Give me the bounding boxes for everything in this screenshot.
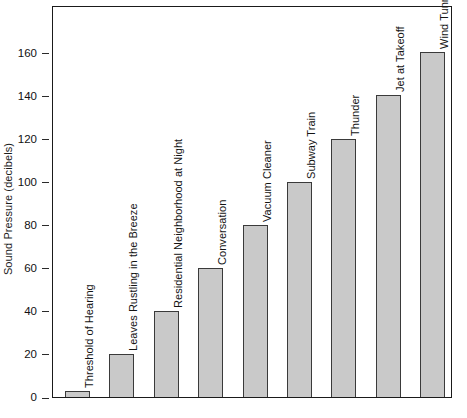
y-axis-ticks: 020406080100120140160 — [0, 0, 52, 418]
y-axis-tick-mark — [42, 354, 49, 355]
bar-category-label: Threshold of Hearing — [84, 284, 95, 388]
bar — [198, 268, 223, 397]
y-axis-tick-label: 100 — [18, 177, 37, 189]
bar — [109, 354, 134, 397]
bar — [243, 225, 268, 397]
y-axis-tick-mark — [42, 225, 49, 226]
plot-area: Threshold of HearingLeaves Rustling in t… — [53, 7, 451, 397]
bar-category-label: Residential Neighborhood at Night — [173, 139, 184, 308]
y-axis-tick-mark — [42, 311, 49, 312]
y-axis-tick-mark — [42, 96, 49, 97]
bar-category-label: Thunder — [350, 94, 361, 135]
bar-category-label: Conversation — [217, 199, 228, 264]
y-axis-tick-mark — [42, 182, 49, 183]
y-axis-tick-label: 160 — [18, 48, 37, 60]
y-axis-tick-label: 20 — [24, 349, 37, 361]
y-axis-tick-mark — [42, 398, 49, 399]
plot-frame: Threshold of HearingLeaves Rustling in t… — [52, 6, 452, 398]
y-axis-tick-label: 40 — [24, 306, 37, 318]
bar-category-label: Jet at Takeoff — [395, 27, 406, 93]
bar — [287, 182, 312, 397]
y-axis-tick: 20 — [24, 348, 52, 362]
y-axis-tick: 40 — [24, 305, 52, 319]
y-axis-tick-label: 60 — [24, 263, 37, 275]
bar — [420, 52, 445, 397]
y-axis-tick-label: 140 — [18, 91, 37, 103]
bar — [65, 391, 90, 397]
bar-category-label: Leaves Rustling in the Breeze — [128, 203, 139, 351]
y-axis-tick: 0 — [31, 391, 52, 405]
bar-category-label: Wind Tunnel — [439, 0, 450, 49]
bar-category-label: Subway Train — [306, 111, 317, 178]
y-axis-tick: 60 — [24, 262, 52, 276]
y-axis-tick-mark — [42, 268, 49, 269]
y-axis-tick-mark — [42, 53, 49, 54]
y-axis-tick-label: 80 — [24, 220, 37, 232]
y-axis-tick-label: 0 — [31, 392, 37, 404]
bar — [331, 139, 356, 397]
y-axis-tick: 80 — [24, 219, 52, 233]
bar — [376, 95, 401, 397]
y-axis-tick-mark — [42, 139, 49, 140]
y-axis-tick-label: 120 — [18, 134, 37, 146]
bar-category-label: Vacuum Cleaner — [262, 140, 273, 222]
bar — [154, 311, 179, 397]
sound-pressure-bar-chart: Sound Pressure (decibels) 02040608010012… — [0, 0, 467, 418]
y-axis-tick: 100 — [18, 176, 52, 190]
y-axis-tick: 160 — [18, 46, 52, 60]
y-axis-tick: 140 — [18, 89, 52, 103]
y-axis-tick: 120 — [18, 133, 52, 147]
